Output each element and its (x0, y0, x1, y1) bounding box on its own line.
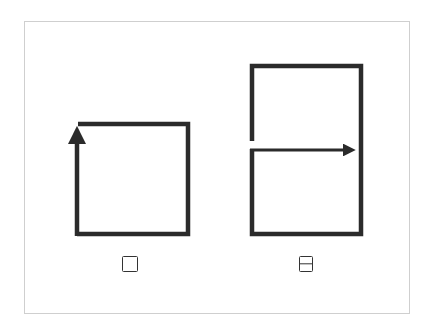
stroke-diagram (0, 0, 432, 332)
square-split-icon (299, 256, 313, 272)
figure-ri (250, 66, 361, 234)
figure-kou (77, 124, 188, 236)
stroke-top-right-bottom (77, 124, 188, 234)
square-icon (122, 256, 138, 272)
